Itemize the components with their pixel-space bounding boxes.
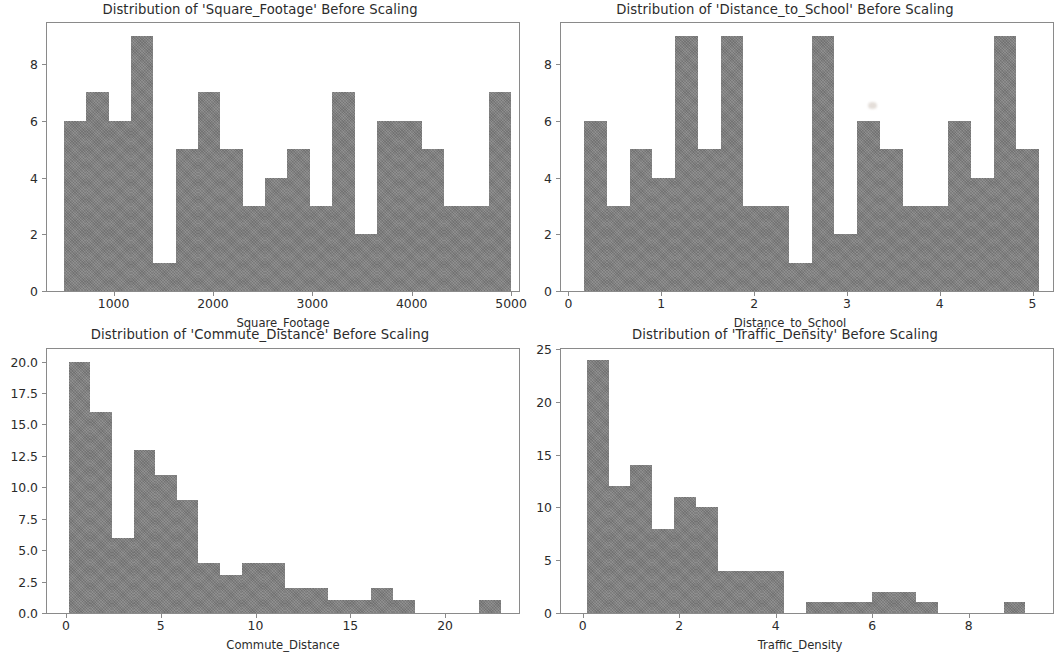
xtick-label: 2 (750, 296, 758, 311)
ytick-mark (42, 393, 46, 394)
ytick-mark (556, 291, 560, 292)
ytick-mark (556, 560, 560, 561)
histogram-bar (466, 206, 488, 291)
histogram-bar (285, 588, 307, 613)
histogram-bar (652, 529, 674, 613)
xtick-label: 3000 (297, 296, 329, 311)
xtick-mark (679, 614, 680, 618)
xtick-mark (940, 292, 941, 296)
xtick-mark (312, 292, 313, 296)
plot-area-distance-to-school (560, 22, 1054, 292)
xtick-label: 5000 (495, 296, 527, 311)
ytick-mark (42, 424, 46, 425)
xtick-mark (350, 614, 351, 618)
histogram-bar (332, 92, 354, 291)
ytick-label: 2.5 (18, 574, 38, 589)
histogram-bar (377, 121, 399, 291)
histogram-bar (1016, 149, 1039, 291)
ytick-label: 7.5 (18, 511, 38, 526)
xtick-mark (161, 614, 162, 618)
xtick-mark (754, 292, 755, 296)
histogram-bar (109, 121, 131, 291)
xtick-label: 2 (675, 618, 683, 633)
histogram-bar (198, 563, 220, 613)
bars-layer-traffic-density (561, 349, 1053, 613)
histogram-bar (399, 121, 421, 291)
histogram-bar (762, 571, 784, 613)
ytick-mark (42, 519, 46, 520)
plot-area-square-footage (46, 22, 520, 292)
histogram-bar (176, 149, 198, 291)
chart-title-distance-to-school: Distribution of 'Distance_to_School' Bef… (540, 2, 1030, 17)
ytick-mark (42, 613, 46, 614)
histogram-bar (630, 465, 652, 613)
ytick-label: 17.5 (10, 386, 38, 401)
xtick-mark (256, 614, 257, 618)
histogram-bar (328, 600, 350, 613)
ytick-label: 25 (536, 342, 552, 357)
histogram-bar (675, 36, 698, 291)
chart-title-commute-distance: Distribution of 'Commute_Distance' Befor… (0, 327, 520, 342)
ytick-mark (42, 178, 46, 179)
histogram-bar (872, 592, 894, 613)
ytick-label: 4 (544, 170, 552, 185)
histogram-bar (806, 602, 828, 613)
ytick-mark (556, 178, 560, 179)
xtick-label: 4 (772, 618, 780, 633)
xtick-mark (872, 614, 873, 618)
ytick-label: 6 (544, 113, 552, 128)
xaxis-title-square-footage: Square_Footage (236, 316, 329, 330)
ytick-label: 0 (544, 284, 552, 299)
xtick-mark (583, 614, 584, 618)
histogram-bar (1004, 602, 1026, 613)
plot-area-traffic-density (560, 348, 1054, 614)
ytick-mark (556, 613, 560, 614)
histogram-bar (674, 497, 696, 613)
histogram-bar (287, 149, 309, 291)
histogram-bar (479, 600, 501, 613)
bars-layer-commute-distance (47, 349, 519, 613)
histogram-bar (743, 206, 766, 291)
ytick-mark (42, 234, 46, 235)
histogram-bar (587, 360, 609, 613)
xtick-mark (412, 292, 413, 296)
histogram-bar (220, 575, 242, 613)
histogram-bar (350, 600, 372, 613)
ytick-mark (556, 121, 560, 122)
chart-title-square-footage: Distribution of 'Square_Footage' Before … (0, 2, 520, 17)
histogram-bar (828, 602, 850, 613)
xtick-mark (847, 292, 848, 296)
histogram-bar (925, 206, 948, 291)
histogram-bar (630, 149, 653, 291)
xtick-label: 0 (579, 618, 587, 633)
histogram-bar (134, 450, 156, 613)
xtick-label: 0 (564, 296, 572, 311)
histogram-bar (307, 588, 329, 613)
ytick-mark (42, 550, 46, 551)
ytick-label: 8 (30, 57, 38, 72)
histogram-bar (766, 206, 789, 291)
histogram-bar (177, 500, 199, 613)
ytick-mark (556, 349, 560, 350)
xtick-label: 10 (248, 618, 264, 633)
ytick-label: 2 (30, 227, 38, 242)
ytick-label: 10.0 (10, 480, 38, 495)
xtick-mark (776, 614, 777, 618)
histogram-bar (444, 206, 466, 291)
histogram-bar (489, 92, 511, 291)
plot-area-commute-distance (46, 348, 520, 614)
histogram-bar (740, 571, 762, 613)
histogram-bar (718, 571, 740, 613)
ytick-label: 20.0 (10, 354, 38, 369)
ytick-label: 20 (536, 394, 552, 409)
xaxis-title-commute-distance: Commute_Distance (226, 638, 339, 652)
histogram-bar (812, 36, 835, 291)
histogram-bar (153, 263, 175, 291)
histogram-bar (242, 563, 264, 613)
histogram-bar (857, 121, 880, 291)
histogram-bar (90, 412, 112, 613)
